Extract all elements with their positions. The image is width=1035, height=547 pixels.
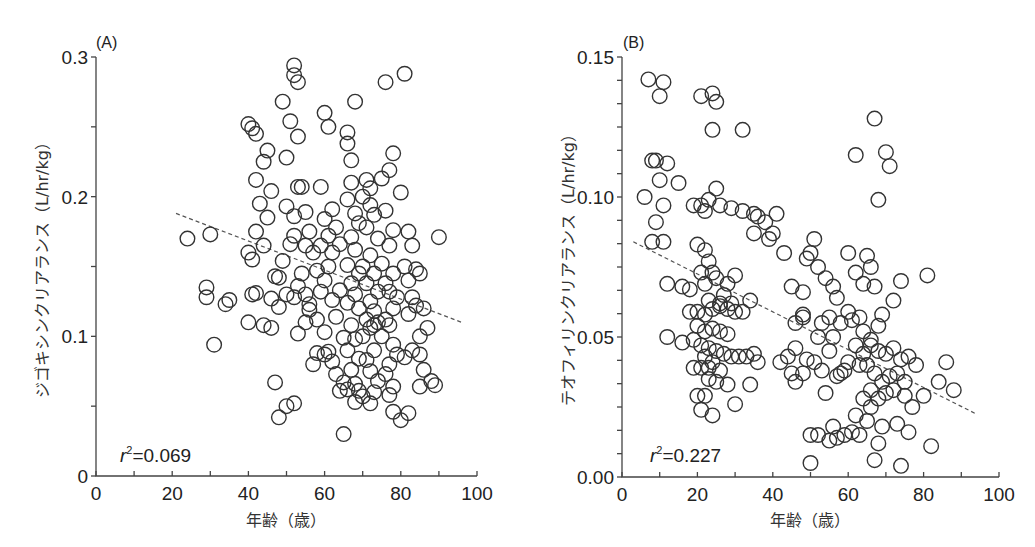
data-point (405, 238, 420, 253)
r2-annotation-a: r2=0.069 (120, 444, 191, 466)
data-point (848, 338, 863, 353)
data-point (325, 293, 340, 308)
data-point (413, 329, 428, 344)
data-point (199, 290, 214, 305)
data-point (352, 301, 367, 316)
data-point (222, 293, 237, 308)
data-point (374, 171, 389, 186)
data-point (777, 246, 792, 261)
data-point (637, 190, 652, 205)
data-point (207, 337, 222, 352)
panel-b-label: (B) (623, 34, 644, 51)
ticks-a: 02040608010000.10.20.3 (62, 47, 493, 504)
data-point (882, 159, 897, 174)
data-point (788, 375, 803, 390)
x-axis-title-b: 年齢（歳） (770, 511, 850, 530)
panel-a-label: (A) (96, 34, 117, 51)
data-point (394, 185, 409, 200)
data-point (875, 419, 890, 434)
data-point (291, 180, 306, 195)
data-point (275, 94, 290, 109)
data-point (264, 291, 279, 306)
data-point (386, 223, 401, 238)
data-point (788, 341, 803, 356)
data-point (705, 123, 720, 138)
data-point (348, 94, 363, 109)
data-point (939, 355, 954, 370)
data-point (924, 439, 939, 454)
data-point (656, 75, 671, 90)
data-point (241, 315, 256, 330)
chart-b: (B) 0204060801000.000.050.100.15 r2=0.22… (559, 34, 1015, 530)
data-point (747, 226, 762, 241)
svg-text:60: 60 (838, 484, 859, 505)
data-point (386, 404, 401, 419)
data-point (382, 238, 397, 253)
data-point (363, 294, 378, 309)
svg-text:40: 40 (762, 484, 783, 505)
svg-text:80: 80 (390, 483, 411, 504)
data-point (279, 150, 294, 165)
svg-text:20: 20 (687, 484, 708, 505)
data-point (867, 111, 882, 126)
data-point (901, 425, 916, 440)
y-axis-title-b: テオフィリンクリアランス（L/hr/kg） (559, 126, 578, 406)
data-point (283, 114, 298, 129)
data-point (325, 202, 340, 217)
data-point (769, 207, 784, 222)
data-point (931, 375, 946, 390)
data-point (268, 375, 283, 390)
data-point (428, 378, 443, 393)
data-point (344, 153, 359, 168)
svg-text:20: 20 (162, 483, 183, 504)
data-point (283, 237, 298, 252)
data-point (705, 408, 720, 423)
data-point (645, 153, 660, 168)
data-point (413, 379, 428, 394)
data-point (241, 117, 256, 132)
points-b (637, 72, 961, 473)
data-point (279, 199, 294, 214)
data-point (897, 389, 912, 404)
data-point (378, 75, 393, 90)
data-point (709, 181, 724, 196)
data-point (317, 106, 332, 121)
svg-text:0: 0 (617, 484, 628, 505)
data-point (709, 95, 724, 110)
data-point (656, 235, 671, 250)
data-point (649, 215, 664, 230)
data-point (660, 330, 675, 345)
svg-text:0.1: 0.1 (62, 326, 88, 347)
data-point (340, 136, 355, 151)
data-point (386, 379, 401, 394)
data-point (355, 189, 370, 204)
chart-a: (A) 02040608010000.10.20.3 r2=0.069 年齢（歳… (33, 34, 493, 530)
data-point (894, 459, 909, 474)
data-point (811, 260, 826, 275)
data-point (291, 129, 306, 144)
data-point (905, 400, 920, 415)
data-point (841, 305, 856, 320)
data-point (735, 123, 750, 138)
r2-annotation-b: r2=0.227 (650, 444, 721, 466)
data-point (397, 66, 412, 81)
points-a (180, 58, 446, 441)
data-point (886, 293, 901, 308)
figure: (A) 02040608010000.10.20.3 r2=0.069 年齢（歳… (0, 0, 1035, 547)
x-axis-title-a: 年齢（歳） (246, 511, 326, 530)
svg-text:60: 60 (314, 483, 335, 504)
data-point (424, 374, 439, 389)
data-point (652, 89, 667, 104)
data-point (784, 279, 799, 294)
data-point (671, 176, 686, 191)
data-point (180, 231, 195, 246)
data-point (382, 388, 397, 403)
data-point (382, 163, 397, 178)
svg-text:100: 100 (983, 484, 1015, 505)
data-point (291, 326, 306, 341)
data-point (401, 273, 416, 288)
data-point (743, 377, 758, 392)
data-point (856, 391, 871, 406)
data-point (660, 277, 675, 292)
data-point (796, 285, 811, 300)
